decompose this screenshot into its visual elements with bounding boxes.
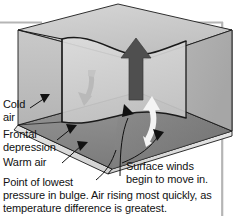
caption-line-first: Point of lowest <box>3 176 233 189</box>
label-cold-air: Cold air <box>3 98 25 123</box>
caption-line-rest: pressure in bulge. Air rising most quick… <box>3 189 233 215</box>
label-frontal-depression: Frontal depression <box>3 128 56 153</box>
label-warm-air: Warm air <box>3 156 46 169</box>
diagram-figure: Cold air Frontal depression Warm air Sur… <box>0 0 242 216</box>
figure-caption: Point of lowest pressure in bulge. Air r… <box>3 176 233 214</box>
